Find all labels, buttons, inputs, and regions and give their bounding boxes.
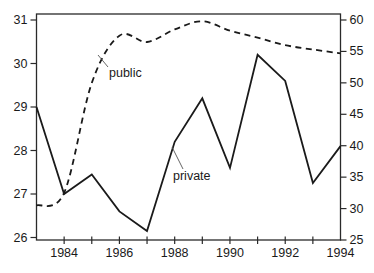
x-axis-tick-label: 1986 (106, 246, 134, 260)
right-axis-tick-label: 30 (350, 202, 364, 216)
right-axis-tick-label: 50 (350, 76, 364, 90)
left-axis-tick-label: 29 (14, 100, 28, 114)
plot-frame (37, 14, 341, 240)
public-annotation-leader (98, 55, 108, 67)
x-axis-tick-label: 1994 (327, 246, 355, 260)
private-annotation-label: private (173, 169, 211, 183)
right-axis-tick-label: 40 (350, 139, 364, 153)
right-axis-tick-label: 35 (350, 170, 364, 184)
x-axis-tick-label: 1990 (216, 246, 244, 260)
left-axis-tick-label: 31 (14, 13, 28, 27)
right-axis-tick-label: 45 (350, 107, 364, 121)
public-annotation-label: public (109, 66, 142, 80)
right-axis-tick-label: 55 (350, 44, 364, 58)
left-axis-tick-label: 28 (14, 144, 28, 158)
dual-axis-line-chart: 2627282930312530354045505560198419861988… (0, 0, 374, 273)
x-axis-tick-label: 1992 (271, 246, 299, 260)
private-annotation-leader (172, 147, 183, 169)
right-axis-tick-label: 25 (350, 233, 364, 247)
x-axis-tick-label: 1984 (50, 246, 78, 260)
chart-figure: 2627282930312530354045505560198419861988… (0, 0, 374, 273)
left-axis-tick-label: 27 (14, 187, 28, 201)
private-series-line (37, 55, 341, 231)
left-axis-tick-label: 26 (14, 231, 28, 245)
left-axis-tick-label: 30 (14, 57, 28, 71)
x-axis-tick-label: 1988 (161, 246, 189, 260)
right-axis-tick-label: 60 (350, 13, 364, 27)
